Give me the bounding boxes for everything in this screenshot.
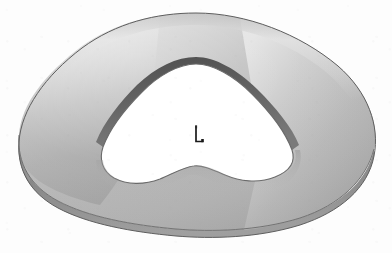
- axis-marker-tip: [201, 139, 204, 142]
- solid-render-canvas: L: [0, 0, 392, 253]
- render-viewport: L: [0, 0, 392, 253]
- axis-marker-top: [195, 125, 197, 128]
